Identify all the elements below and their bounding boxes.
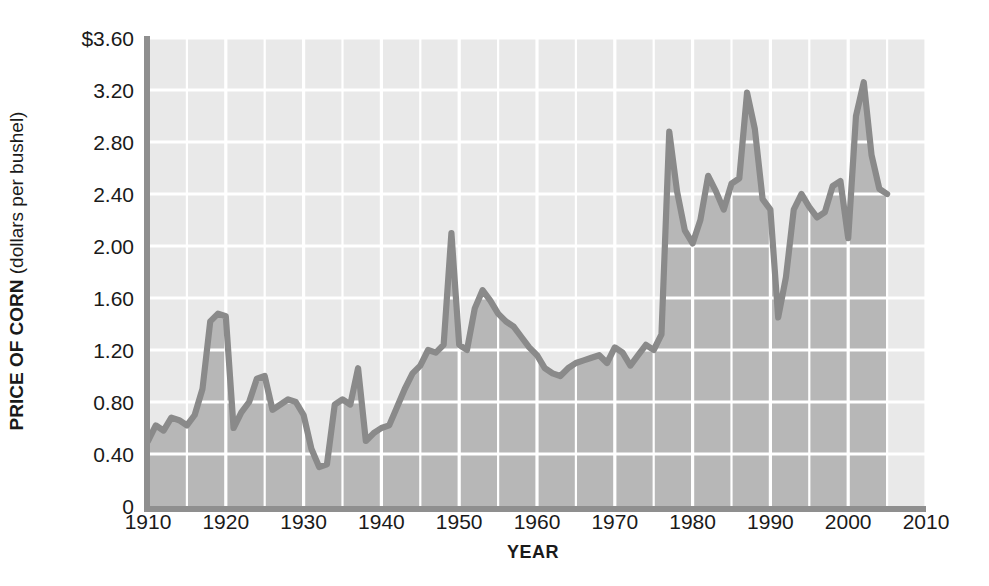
y-axis-title-units: (dollars per bushel) [6, 112, 27, 280]
y-axis-tick-label: 2.00 [93, 236, 134, 257]
x-axis-tick-label: 2010 [903, 510, 950, 534]
x-axis-tick-label: 1910 [125, 510, 172, 534]
y-axis-tick-label: 3.20 [93, 80, 134, 101]
y-axis-tick-label: $3.60 [81, 28, 134, 49]
x-axis-tick-label: 1970 [591, 510, 638, 534]
y-axis-title: PRICE OF CORN (dollars per bushel) [6, 112, 28, 431]
y-axis-tick-labels: $3.603.202.802.402.001.601.200.800.400 [34, 0, 142, 586]
plot-area [142, 32, 932, 512]
y-axis-line [144, 36, 150, 512]
x-axis-tick-label: 1940 [358, 510, 405, 534]
y-axis-title-bold: PRICE OF CORN [6, 279, 27, 430]
y-axis-tick-label: 1.60 [93, 288, 134, 309]
x-axis-tick-label: 2000 [825, 510, 872, 534]
y-axis-tick-label: 0.40 [93, 444, 134, 465]
y-axis-tick-label: 0.80 [93, 392, 134, 413]
y-axis-tick-label: 2.40 [93, 184, 134, 205]
x-axis-tick-label: 1920 [202, 510, 249, 534]
y-axis-tick-label: 2.80 [93, 132, 134, 153]
y-axis-title-container: PRICE OF CORN (dollars per bushel) [0, 38, 34, 504]
y-axis-tick-label: 1.20 [93, 340, 134, 361]
corn-price-chart-figure: PRICE OF CORN (dollars per bushel) $3.60… [0, 0, 989, 586]
x-axis-tick-label: 1980 [669, 510, 716, 534]
x-axis-tick-label: 1960 [514, 510, 561, 534]
x-axis-title: YEAR [507, 542, 559, 563]
x-axis-tick-labels: 1910192019301940195019601970198019902000… [0, 510, 989, 540]
x-axis-tick-label: 1930 [280, 510, 327, 534]
x-axis-tick-label: 1950 [436, 510, 483, 534]
x-axis-tick-label: 1990 [747, 510, 794, 534]
